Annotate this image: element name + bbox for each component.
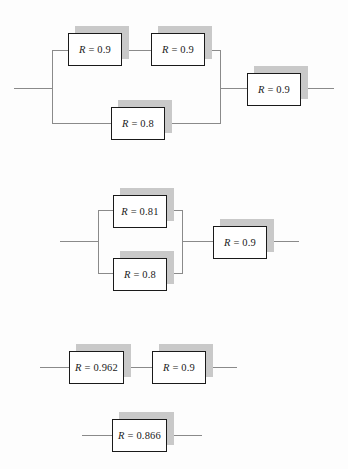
wire-stage2-input [60,241,98,242]
block-label-s2-b2: R = 0.8 [124,269,156,280]
wire-stage2-lower-in [98,273,114,274]
block-s2-b3[interactable]: R = 0.9 [213,226,267,259]
diagram-canvas: R = 0.9 R = 0.9 R = 0.8 R = 0.9 [0,0,348,469]
block-label-s4-b1: R = 0.866 [118,430,161,441]
wire-stage2-upper-in [98,210,114,211]
block-s1-b2[interactable]: R = 0.9 [151,33,205,66]
wire-stage2-series-in [182,241,214,242]
block-s2-b1[interactable]: R = 0.81 [113,195,167,228]
block-s3-b1[interactable]: R = 0.962 [69,351,124,384]
wire-stage4-input [82,435,112,436]
block-label-s1-b3: R = 0.8 [122,118,154,129]
block-s2-b2[interactable]: R = 0.8 [113,258,167,291]
block-label-s2-b3: R = 0.9 [224,237,256,248]
block-s1-b4[interactable]: R = 0.9 [247,73,301,106]
block-label-s3-b2: R = 0.9 [163,362,195,373]
block-label-s3-b1: R = 0.962 [75,362,118,373]
block-label-s1-b4: R = 0.9 [258,84,290,95]
block-s4-b1[interactable]: R = 0.866 [112,419,167,452]
block-label-s1-b2: R = 0.9 [162,44,194,55]
block-label-s2-b1: R = 0.81 [121,206,159,217]
block-label-s1-b1: R = 0.9 [79,44,111,55]
wire-stage3-input [40,367,69,368]
block-s1-b1[interactable]: R = 0.9 [68,33,122,66]
block-s3-b2[interactable]: R = 0.9 [152,351,206,384]
wire-stage2-left-bus [98,210,99,273]
block-s1-b3[interactable]: R = 0.8 [111,107,165,140]
